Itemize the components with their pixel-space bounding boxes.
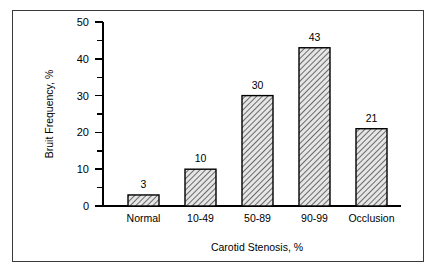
bar-normal — [128, 195, 159, 206]
figure-frame: 0 10 20 30 40 50 3 10 30 43 21 — [12, 10, 424, 262]
y-axis-title: Bruit Frequency, % — [43, 70, 55, 159]
category-label-occlusion: Occlusion — [348, 212, 394, 224]
y-axis-tick-labels: 0 10 20 30 40 50 — [77, 16, 89, 212]
bar-chart: 0 10 20 30 40 50 3 10 30 43 21 — [13, 11, 423, 261]
bars-group — [128, 48, 387, 206]
y-tick-label-30: 30 — [77, 90, 89, 102]
y-tick-label-10: 10 — [77, 163, 89, 175]
bar-90-99 — [299, 48, 330, 206]
value-label-50-89: 30 — [252, 79, 264, 91]
category-label-50-89: 50-89 — [244, 212, 271, 224]
value-label-occlusion: 21 — [366, 112, 378, 124]
value-label-normal: 3 — [141, 178, 147, 190]
bar-50-89 — [242, 96, 273, 206]
figure-container: 0 10 20 30 40 50 3 10 30 43 21 — [0, 0, 437, 277]
value-label-90-99: 43 — [309, 31, 321, 43]
bar-occlusion — [356, 129, 387, 206]
x-axis-title: Carotid Stenosis, % — [211, 241, 303, 253]
y-tick-label-20: 20 — [77, 126, 89, 138]
y-tick-label-50: 50 — [77, 16, 89, 28]
bar-10-49 — [185, 169, 216, 206]
category-label-10-49: 10-49 — [187, 212, 214, 224]
x-axis-category-labels: Normal 10-49 50-89 90-99 Occlusion — [127, 212, 395, 224]
category-label-90-99: 90-99 — [301, 212, 328, 224]
y-tick-label-40: 40 — [77, 53, 89, 65]
category-label-normal: Normal — [127, 212, 161, 224]
y-tick-label-0: 0 — [83, 200, 89, 212]
value-label-10-49: 10 — [195, 152, 207, 164]
